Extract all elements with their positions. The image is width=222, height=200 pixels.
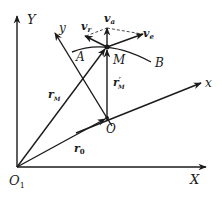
label-rM-prime: r′M: [113, 74, 125, 90]
ve-vector: [107, 34, 143, 47]
r0-vector: [17, 119, 105, 167]
label-B: B: [154, 56, 164, 70]
label-x: x: [205, 76, 212, 90]
point-M: [105, 45, 110, 50]
relative-motion-diagram: Y X O1 x y O M A B va vr ve rM r′M r0: [0, 0, 222, 200]
label-Y: Y: [27, 12, 37, 27]
label-vr: vr: [81, 20, 92, 34]
point-O: [105, 116, 109, 120]
label-O1: O1: [9, 173, 25, 190]
vr-vector: [85, 36, 107, 47]
label-M: M: [112, 53, 126, 67]
dashed-line-right: [107, 28, 142, 34]
label-ve: ve: [143, 27, 154, 41]
label-A: A: [75, 50, 85, 64]
label-X: X: [189, 172, 200, 187]
label-rM: rM: [48, 88, 61, 102]
rM-vector: [17, 49, 105, 167]
label-O: O: [106, 122, 116, 136]
label-va: va: [104, 12, 115, 26]
x-axis-moving: [76, 83, 201, 133]
label-r0: r0: [74, 142, 85, 156]
label-y: y: [58, 21, 66, 35]
